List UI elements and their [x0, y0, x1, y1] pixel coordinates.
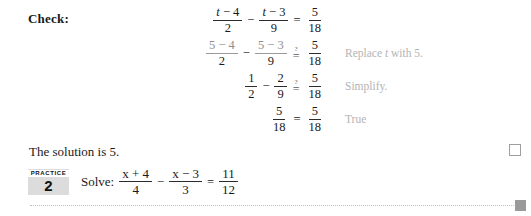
- fraction-denominator: 4: [129, 182, 142, 197]
- fraction: t − 3 9: [259, 6, 288, 35]
- fraction: 5 − 4 2: [206, 39, 238, 68]
- equals-glyph: =: [293, 85, 300, 94]
- fraction-numerator: 5: [309, 105, 321, 120]
- equation-row: t − 4 2 − t − 3 9 = 5 18: [150, 4, 510, 37]
- fraction: x + 4 4: [119, 167, 152, 197]
- fraction-numerator: 5 − 4: [206, 39, 238, 54]
- fraction-denominator: 2: [216, 54, 228, 69]
- equals-sign: =: [203, 176, 218, 189]
- minus-operator: −: [258, 80, 273, 93]
- fraction: 5 − 3 9: [255, 39, 287, 68]
- equation-expression: t − 4 2 − t − 3 9 = 5 18: [150, 6, 325, 35]
- fraction: 5 18: [306, 6, 325, 35]
- fraction-denominator: 3: [179, 182, 192, 197]
- fraction: x − 3 3: [169, 167, 202, 197]
- equals-question-sign: ? =: [288, 79, 305, 94]
- fraction: t − 4 2: [213, 6, 242, 35]
- variable-t: t: [262, 5, 265, 19]
- reason-text-pre: Replace: [345, 47, 385, 59]
- equals-sign: =: [289, 113, 304, 126]
- equals-sign: =: [289, 14, 304, 27]
- fraction-numerator: 5: [309, 72, 321, 87]
- fraction: 5 18: [306, 72, 325, 101]
- reason-text-post: with 5.: [388, 47, 423, 59]
- fraction-numerator: 5: [309, 6, 321, 21]
- solution-statement: The solution is 5.: [29, 144, 119, 160]
- minus-operator: −: [239, 47, 254, 60]
- fraction-denominator: 18: [306, 21, 325, 36]
- fraction-denominator: 2: [245, 87, 257, 102]
- fraction-denominator: 9: [274, 87, 286, 102]
- fraction-numerator: t − 4: [213, 6, 242, 21]
- fraction: 1 2: [245, 72, 257, 101]
- section-divider: [30, 205, 514, 206]
- fraction-denominator: 2: [222, 21, 234, 36]
- answer-checkbox-icon[interactable]: [509, 144, 521, 156]
- equation-row: 5 − 4 2 − 5 − 3 9 ? = 5 18 Replace t wit…: [150, 37, 510, 70]
- row-reason: Replace t with 5.: [345, 48, 423, 60]
- equals-question-sign: ? =: [288, 46, 305, 61]
- minus-operator: −: [153, 176, 168, 189]
- fraction: 5 18: [306, 105, 325, 134]
- equation-row: 1 2 − 2 9 ? = 5 18 Simplify.: [150, 70, 510, 103]
- fraction-denominator: 12: [219, 182, 238, 197]
- practice-number: 2: [28, 177, 69, 195]
- practice-badge: PRACTICE 2: [28, 169, 69, 195]
- fraction-denominator: 18: [306, 54, 325, 69]
- minus-operator: −: [243, 14, 258, 27]
- fraction-numerator: 5: [273, 105, 285, 120]
- fraction: 2 9: [274, 72, 286, 101]
- fraction-denominator: 9: [268, 21, 280, 36]
- fraction-denominator: 18: [306, 87, 325, 102]
- variable-t: t: [216, 5, 219, 19]
- fraction-numerator: x + 4: [119, 167, 152, 182]
- equation-row: 5 18 = 5 18 True: [150, 103, 510, 136]
- equation-expression: 5 − 4 2 − 5 − 3 9 ? = 5 18: [150, 39, 325, 68]
- fraction: 5 18: [270, 105, 289, 134]
- fraction: 5 18: [306, 39, 325, 68]
- check-label: Check:: [28, 11, 69, 27]
- fraction-numerator: t − 3: [259, 6, 288, 21]
- fraction-numerator: 11: [219, 167, 238, 182]
- practice-kicker-label: PRACTICE: [28, 170, 69, 177]
- equation-expression: 1 2 − 2 9 ? = 5 18: [150, 72, 325, 101]
- fraction-numerator: 1: [245, 72, 257, 87]
- fraction-denominator: 9: [265, 54, 277, 69]
- practice-prompt: Solve: x + 4 4 − x − 3 3 = 11 12: [81, 167, 239, 197]
- fraction-numerator: 2: [274, 72, 286, 87]
- fraction: 11 12: [219, 167, 238, 197]
- equation-expression: 5 18 = 5 18: [150, 105, 325, 134]
- row-reason: True: [345, 114, 366, 126]
- fraction-denominator: 18: [270, 120, 289, 135]
- practice-block: PRACTICE 2 Solve: x + 4 4 − x − 3 3 = 11…: [28, 167, 239, 197]
- practice-prompt-lead: Solve:: [81, 174, 114, 190]
- end-of-section-marker-icon: [515, 200, 526, 211]
- equals-glyph: =: [293, 52, 300, 61]
- check-work-area: t − 4 2 − t − 3 9 = 5 18 5 − 4 2 − 5: [150, 4, 510, 136]
- fraction-numerator: 5 − 3: [255, 39, 287, 54]
- fraction-numerator: 5: [309, 39, 321, 54]
- fraction-numerator: x − 3: [169, 167, 202, 182]
- fraction-denominator: 18: [306, 120, 325, 135]
- row-reason: Simplify.: [345, 81, 387, 93]
